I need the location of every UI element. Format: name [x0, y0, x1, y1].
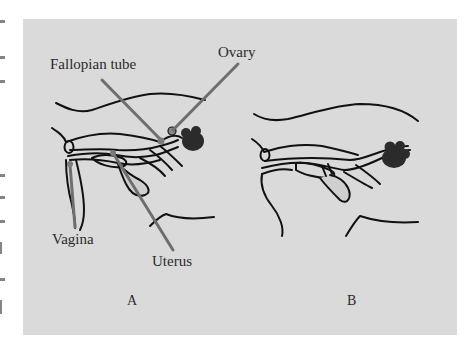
front-contour-b [261, 174, 282, 236]
upper-outline-a [52, 128, 160, 142]
bladder-b [320, 175, 350, 202]
leader-ovary [173, 64, 238, 130]
ovary-b [382, 141, 410, 168]
label-ovary: Ovary [218, 45, 256, 60]
upper-outline-b [252, 139, 358, 155]
label-vagina: Vagina [52, 232, 94, 247]
loop-a [65, 141, 74, 153]
label-uterus: Uterus [152, 254, 192, 269]
label-fallopian-tube: Fallopian tube [50, 57, 136, 72]
panel-label-b: B [347, 294, 356, 308]
back-contour-b [254, 104, 418, 121]
panel-label-a: A [127, 294, 137, 308]
leader-fallopian-tube [102, 80, 161, 140]
front-contour-a-2 [76, 160, 84, 230]
tract-mid-a [68, 147, 178, 157]
lower-back-b [346, 216, 418, 236]
posterior-line-a-2 [140, 158, 165, 176]
lower-back-a [150, 214, 214, 226]
diagram-b [252, 104, 418, 236]
tract-lower-b [262, 169, 292, 174]
leader-uterus [113, 153, 173, 250]
